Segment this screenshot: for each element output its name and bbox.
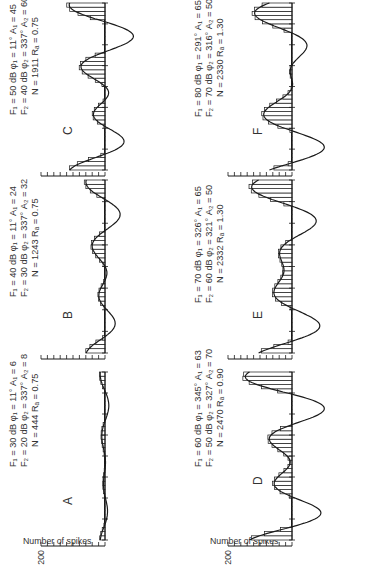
- param-line-3: N = 1911 Rₐ = 0.75: [30, 17, 40, 95]
- param-line-3: N = 2330 Rₐ = 1.30: [215, 18, 225, 97]
- histogram-bin: [264, 532, 292, 536]
- panel-e: E F₁ = 70 dB φ₁ = 326° A₁ = 65 F₂ = 60 d…: [193, 180, 320, 359]
- y-tick-label-200: 200: [223, 550, 233, 565]
- y-axis-title: Number of spikes: [23, 536, 92, 546]
- histogram-bin: [243, 376, 292, 380]
- panel-letter: C: [61, 126, 75, 135]
- panel-letter: F: [251, 128, 265, 135]
- histogram-bin: [254, 7, 292, 11]
- param-line-1: F₁ = 30 dB φ₁ = 11° A₁ = 6: [8, 361, 18, 467]
- param-line-3: N = 2470 Rₐ = 0.90: [215, 368, 225, 447]
- param-line-2: F₂ = 70 dB φ₂ = 316° A₂ = 50: [204, 0, 214, 117]
- param-line-2: F₂ = 40 dB φ₂ = 337° A₂ = 60: [19, 0, 29, 115]
- panel-letter: A: [61, 497, 75, 505]
- histogram-bin: [84, 180, 105, 184]
- param-line-1: F₁ = 80 dB φ₁ = 291° A₁ = 65: [193, 0, 203, 117]
- period-histogram-figure: Number of spikes 200 A F₁ = 30 dB φ₁ = 1…: [0, 0, 379, 575]
- param-line-2: F₂ = 50 dB φ₂ = 327° A₂ = 70: [204, 349, 214, 467]
- param-line-1: F₁ = 50 dB φ₁ = 11° A₁ = 45: [8, 4, 18, 115]
- histogram-bin: [79, 66, 105, 70]
- param-line-1: F₁ = 40 dB φ₁ = 11° A₁ = 24: [8, 186, 18, 297]
- histogram-bin: [273, 288, 292, 292]
- panel-a: Number of spikes 200 A F₁ = 30 dB φ₁ = 1…: [8, 354, 109, 565]
- histogram-bin: [244, 372, 292, 376]
- panel-c: C F₁ = 50 dB φ₁ = 11° A₁ = 45 F₂ = 40 dB…: [8, 0, 133, 176]
- histogram-bin: [262, 112, 292, 116]
- param-line-3: N = 444 Rₐ = 0.75: [30, 374, 40, 447]
- histogram-bin: [268, 439, 292, 443]
- figure-stage: Number of spikes 200 A F₁ = 30 dB φ₁ = 1…: [0, 0, 379, 575]
- panel-f: F F₁ = 80 dB φ₁ = 291° A₁ = 65 F₂ = 70 d…: [193, 0, 324, 176]
- histogram-bin: [88, 74, 105, 78]
- param-line-1: F₁ = 70 dB φ₁ = 326° A₁ = 65: [193, 186, 203, 303]
- param-line-2: F₂ = 60 dB φ₂ = 321° A₂ = 50: [204, 185, 214, 303]
- param-line-2: F₂ = 30 dB φ₂ = 337° A₂ = 32: [19, 179, 29, 297]
- panel-letter: B: [61, 311, 75, 319]
- histogram-bin: [262, 385, 292, 389]
- histogram-bin: [268, 435, 292, 439]
- panel-b: B F₁ = 40 dB φ₁ = 11° A₁ = 24 F₂ = 30 dB…: [8, 179, 120, 359]
- histogram-bin: [86, 57, 105, 61]
- histogram-bin: [273, 292, 292, 296]
- histogram-bin: [252, 11, 292, 15]
- histogram-bin: [251, 189, 292, 193]
- param-line-2: F₂ = 20 dB φ₂ = 337° A₂ = 8: [19, 354, 29, 467]
- histogram-bin: [67, 3, 105, 7]
- y-tick-label-200: 200: [36, 550, 46, 565]
- panel-d: Number of spikes 200 D F₁ = 60 dB φ₁ = 3…: [193, 349, 324, 565]
- panel-letter: E: [251, 311, 265, 319]
- param-line-3: N = 2332 Rₐ = 1.30: [215, 204, 225, 283]
- histogram-bin: [263, 116, 292, 120]
- param-line-1: F₁ = 60 dB φ₁ = 345° A₁ = 63: [193, 350, 203, 467]
- histogram-bin: [249, 184, 292, 188]
- histogram-bin: [273, 481, 292, 485]
- fitted-curve: [69, 3, 133, 170]
- panel-letter: D: [251, 476, 265, 485]
- param-line-3: N = 1243 Rₐ = 0.75: [30, 198, 40, 277]
